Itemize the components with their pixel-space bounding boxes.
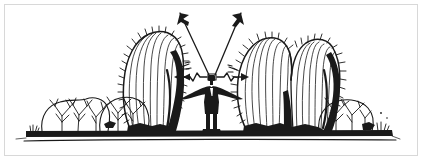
desert-scene-illustration [0,0,423,161]
illustration-frame: Black and white line drawing of a figure… [0,0,423,161]
right-cactus-pair [228,32,346,132]
standing-figure [180,75,243,132]
arrow-right [217,73,249,81]
